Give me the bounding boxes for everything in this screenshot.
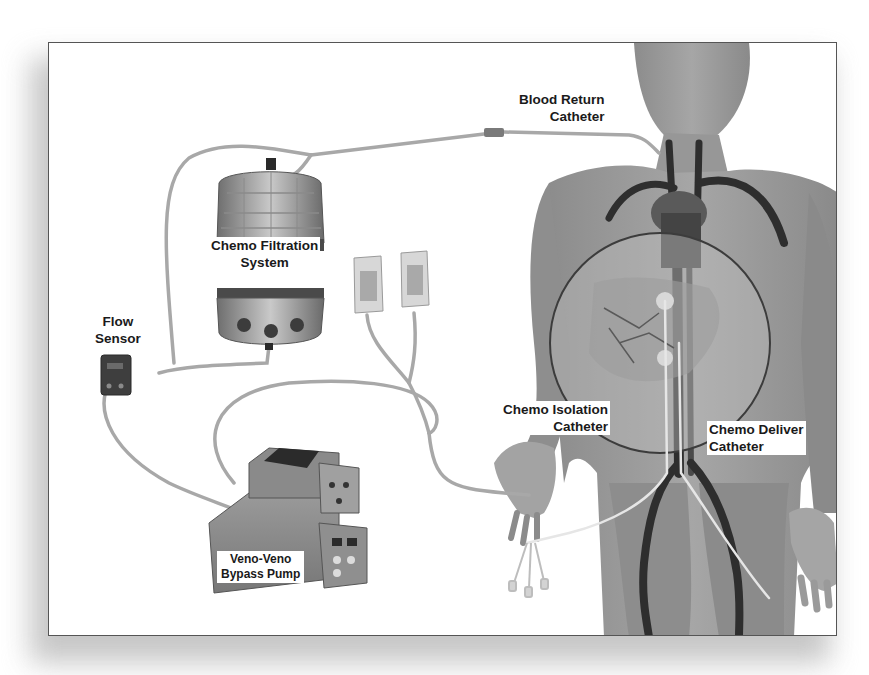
label-line: Catheter: [709, 438, 804, 455]
label-line: Chemo Isolation: [503, 401, 608, 418]
label-blood-return-catheter: Blood Return Catheter: [517, 91, 607, 125]
flow-sensor: [101, 355, 131, 395]
label-line: Flow: [95, 313, 141, 330]
label-chemo-filtration-system: Chemo Filtration System: [209, 237, 320, 271]
label-chemo-isolation-catheter: Chemo Isolation Catheter: [501, 401, 610, 435]
diagram-artwork: [49, 43, 837, 636]
label-line: Blood Return: [519, 91, 605, 108]
label-line: Chemo Filtration: [211, 237, 318, 254]
iv-bags: [354, 251, 429, 313]
label-line: Catheter: [503, 418, 608, 435]
label-line: Veno-Veno: [221, 552, 300, 567]
label-line: Chemo Deliver: [709, 421, 804, 438]
label-chemo-deliver-catheter: Chemo Deliver Catheter: [707, 421, 806, 455]
diagram-frame: Blood Return Catheter Chemo Filtration S…: [48, 42, 837, 636]
label-veno-veno-bypass-pump: Veno-Veno Bypass Pump: [217, 551, 304, 583]
label-flow-sensor: Flow Sensor: [93, 313, 143, 347]
label-line: Bypass Pump: [221, 567, 300, 582]
label-line: Catheter: [519, 108, 605, 125]
label-line: System: [211, 254, 318, 271]
catheter-ports: [509, 543, 548, 597]
tubing-connector: [484, 128, 504, 137]
label-line: Sensor: [95, 330, 141, 347]
